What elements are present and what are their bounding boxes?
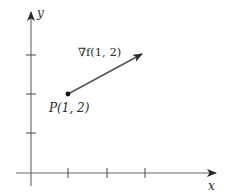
x-axis: [16, 168, 216, 178]
x-axis-label: x: [208, 179, 215, 193]
y-axis: [26, 12, 36, 186]
y-axis-label: y: [36, 6, 44, 20]
gradient-vector-arrow: [68, 54, 142, 94]
gradient-diagram: x y ∇f(1, 2) P(1, 2): [0, 0, 228, 194]
point-p: [66, 92, 71, 97]
point-p-label: P(1, 2): [48, 101, 90, 115]
gradient-vector-label: ∇f(1, 2): [78, 45, 121, 59]
